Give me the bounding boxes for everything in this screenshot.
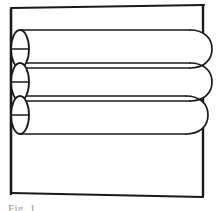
technical-line-drawing: [0, 0, 220, 211]
figure-container: Fig. 1: [0, 0, 220, 211]
